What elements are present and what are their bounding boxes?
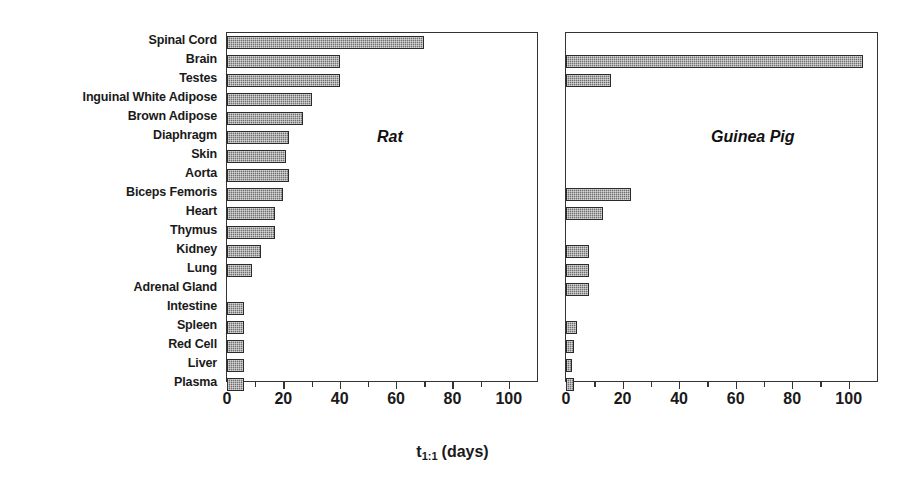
axis-tick (566, 382, 567, 389)
category-label: Plasma (0, 376, 222, 389)
bar (227, 207, 275, 220)
bar-row (227, 224, 537, 243)
bar-row (227, 91, 537, 110)
axis-tick (509, 382, 510, 389)
bar (227, 264, 252, 277)
axis-tick (764, 382, 765, 387)
figure-root: Spinal CordBrainTestesInguinal White Adi… (0, 0, 905, 489)
bar (227, 226, 275, 239)
bar-row (566, 205, 877, 224)
bar (227, 359, 244, 372)
bar-row (566, 224, 877, 243)
bar-row (227, 167, 537, 186)
axis-tick (792, 382, 793, 389)
bar (566, 74, 611, 87)
bar-row (227, 243, 537, 262)
bar-row (227, 338, 537, 357)
axis-tick (227, 382, 228, 389)
bar-row (227, 205, 537, 224)
bar-row (227, 357, 537, 376)
axis-tick (651, 382, 652, 387)
bar-row (227, 186, 537, 205)
bar (566, 55, 863, 68)
bar-row (566, 72, 877, 91)
axis-tick-label: 80 (783, 390, 801, 408)
axis-tick (594, 382, 595, 387)
category-label: Skin (0, 148, 222, 161)
axis-tick-label: 100 (495, 390, 522, 408)
bar-row (566, 357, 877, 376)
category-label: Liver (0, 357, 222, 370)
axis-tick (820, 382, 821, 387)
plot-area-rat (227, 33, 537, 381)
bar-row (227, 72, 537, 91)
x-axis-rat: 020406080100 (226, 382, 538, 422)
axis-tick (255, 382, 256, 387)
axis-tick-label: 0 (223, 390, 232, 408)
bar (227, 302, 244, 315)
category-label: Spinal Cord (0, 34, 222, 47)
bar-row (227, 300, 537, 319)
bar-row (227, 53, 537, 72)
panel-title-rat: Rat (377, 128, 403, 146)
axis-tick (340, 382, 341, 389)
bar (227, 55, 340, 68)
axis-tick-label: 60 (727, 390, 745, 408)
bar-row (227, 262, 537, 281)
panel-title-guinea-pig: Guinea Pig (711, 128, 795, 146)
axis-tick-label: 20 (274, 390, 292, 408)
category-label: Kidney (0, 243, 222, 256)
bar (566, 245, 589, 258)
bar (227, 36, 424, 49)
axis-tick (481, 382, 482, 387)
category-label: Aorta (0, 167, 222, 180)
panel-guinea-pig: Guinea Pig (565, 32, 878, 382)
bar (227, 131, 289, 144)
bar-row (566, 53, 877, 72)
bar (227, 340, 244, 353)
axis-tick (424, 382, 425, 387)
bar-row (566, 262, 877, 281)
bar-row (566, 319, 877, 338)
x-axis-units: (days) (442, 443, 489, 460)
bar (566, 283, 589, 296)
bar-row (566, 243, 877, 262)
bar-row (227, 319, 537, 338)
bar (227, 169, 289, 182)
panel-rat: Rat (226, 32, 538, 382)
axis-tick (396, 382, 397, 389)
axis-tick (707, 382, 708, 387)
category-label: Spleen (0, 319, 222, 332)
bar (566, 264, 589, 277)
bar-row (227, 281, 537, 300)
axis-tick (679, 382, 680, 389)
x-axis-subscript: 1:1 (422, 450, 438, 462)
bar-row (566, 167, 877, 186)
bar-row (566, 300, 877, 319)
bar-row (227, 148, 537, 167)
axis-tick (283, 382, 284, 389)
category-label: Inguinal White Adipose (0, 91, 222, 104)
x-axis-guinea-pig: 020406080100 (565, 382, 878, 422)
axis-tick (623, 382, 624, 389)
axis-tick (849, 382, 850, 389)
plot-area-guinea-pig (566, 33, 877, 381)
axis-tick-label: 20 (614, 390, 632, 408)
category-label: Red Cell (0, 338, 222, 351)
category-label: Thymus (0, 224, 222, 237)
category-label-column: Spinal CordBrainTestesInguinal White Adi… (0, 32, 222, 382)
category-label: Biceps Femoris (0, 186, 222, 199)
bar (227, 321, 244, 334)
category-label: Brown Adipose (0, 110, 222, 123)
bar (566, 340, 574, 353)
category-label: Testes (0, 72, 222, 85)
bar (227, 93, 312, 106)
bar (227, 188, 283, 201)
bar-row (227, 34, 537, 53)
axis-tick-label: 60 (387, 390, 405, 408)
axis-tick-label: 40 (331, 390, 349, 408)
bar (566, 188, 631, 201)
axis-tick (452, 382, 453, 389)
category-label: Brain (0, 53, 222, 66)
bar-row (566, 281, 877, 300)
